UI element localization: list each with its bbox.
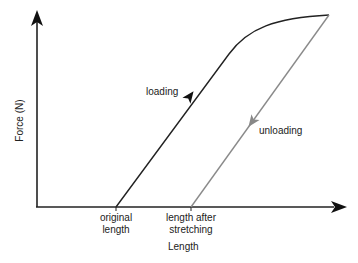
x-tick-label-original-length: original length — [86, 212, 146, 236]
loading-label: loading — [146, 86, 178, 98]
loading-arrow-icon — [182, 88, 197, 104]
unloading-label: unloading — [259, 125, 302, 137]
x-tick-after-line1: length after — [156, 212, 226, 224]
x-tick-original-line1: original — [86, 212, 146, 224]
x-axis-label: Length — [168, 241, 199, 253]
unloading-line — [191, 15, 329, 207]
unloading-arrow-icon — [244, 114, 259, 130]
x-tick-original-line2: length — [86, 224, 146, 236]
loading-curve — [116, 15, 329, 207]
y-axis-label: Force (N) — [14, 96, 25, 146]
x-tick-label-length-after-stretching: length after stretching — [156, 212, 226, 236]
x-tick-after-line2: stretching — [156, 224, 226, 236]
